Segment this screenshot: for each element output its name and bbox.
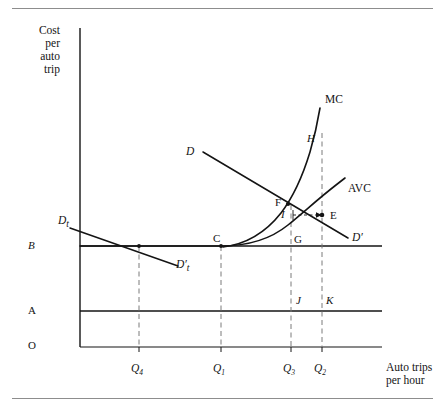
point-label-j: J [296,294,301,306]
point-label-c: C [213,232,220,244]
demand-curve-dt-dtprime [70,228,178,266]
point-label-h: H [307,132,315,144]
x-tick-label-q2: Q2 [314,362,326,375]
point-marker-c [219,244,223,248]
x-axis-title: Auto trips per hour [386,361,432,387]
y-axis-title-line-1: Cost [12,24,60,37]
point-label-i: I [281,208,285,220]
demand-t-sub: t [66,218,69,229]
y-axis-title: Cost per auto trip [12,24,60,76]
x-tick-q2-sub: 2 [322,368,326,377]
demand-t-curve-label: Dt [58,214,69,227]
point-marker-f [286,202,290,206]
avc-curve-label: AVC [348,182,371,195]
point-label-g: G [294,233,302,245]
y-axis-title-line-2: per [12,37,60,50]
chart-canvas [0,0,445,409]
point-label-e: E [330,209,337,221]
x-tick-label-q1: Q1 [213,362,225,375]
mc-curve [223,108,320,247]
mc-curve-label: MC [325,93,343,106]
demand-prime-curve-label: D′ [352,231,363,244]
y-axis-title-line-4: trip [12,63,60,76]
x-tick-label-q3: Q3 [283,362,295,375]
x-tick-q4-sub: 4 [139,368,143,377]
demand-curve-label: D [186,145,194,158]
demand-t-prime-curve-label: D′t [176,258,190,271]
level-label-a: A [28,304,36,316]
x-tick-q3-sub: 3 [291,368,295,377]
point-marker-q4-on-b [137,244,141,248]
x-tick-q1-sub: 1 [221,368,225,377]
x-axis-title-line-2: per hour [386,374,432,387]
origin-label: O [28,339,36,351]
point-marker-e [320,213,325,218]
x-axis-title-line-1: Auto trips [386,361,432,374]
point-label-k: K [326,294,333,306]
y-axis-title-line-3: auto [12,50,60,63]
level-label-b: B [28,239,35,251]
point-label-f: F [275,196,281,208]
figure-container: Cost per auto trip Auto trips per hour B… [0,0,445,409]
demand-t-prime-base: D′ [176,258,187,270]
x-tick-label-q4: Q4 [131,362,143,375]
demand-t-prime-sub: t [187,262,190,273]
demand-curve-d-dprime [203,152,348,238]
